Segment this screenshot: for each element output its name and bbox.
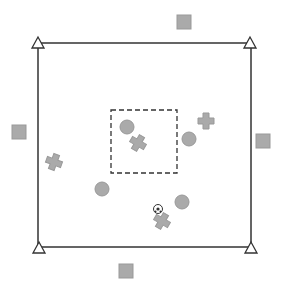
player-circle (95, 182, 109, 196)
player-circle (175, 195, 189, 209)
player-cross (198, 113, 214, 129)
player-circle (120, 120, 134, 134)
player-cross (127, 132, 149, 154)
ball-icon (154, 205, 163, 214)
center-zone (111, 110, 177, 173)
square-marker-right (256, 134, 270, 148)
square-marker-top (177, 15, 191, 29)
player-circle (182, 132, 196, 146)
player-cross (44, 152, 65, 173)
player-cross (151, 210, 173, 232)
drill-diagram (0, 0, 281, 286)
square-marker-bottom (119, 264, 133, 278)
square-marker-left (12, 125, 26, 139)
